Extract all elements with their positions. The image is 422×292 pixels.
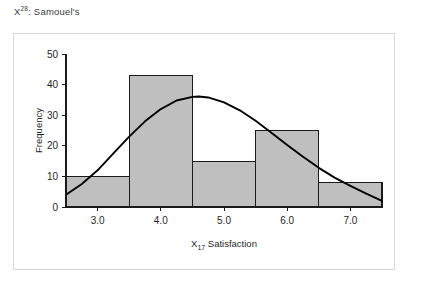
histogram-chart: 01020304050 3.04.05.06.07.0 Frequency X1…	[0, 0, 422, 292]
histogram-bar	[192, 161, 255, 207]
x-axis-ticks: 3.04.05.06.07.0	[91, 207, 358, 226]
y-axis-title-text: Frequency	[33, 108, 44, 153]
histogram-svg: 01020304050 3.04.05.06.07.0 Frequency X1…	[0, 0, 422, 292]
x-axis-tick-label: 5.0	[217, 215, 231, 226]
y-axis-tick-label: 20	[47, 140, 59, 151]
y-axis-ticks: 01020304050	[47, 49, 66, 213]
y-axis-title: Frequency	[33, 108, 44, 153]
histogram-bar	[66, 176, 129, 207]
y-axis-tick-label: 40	[47, 79, 59, 90]
x-axis-tick-label: 4.0	[154, 215, 168, 226]
y-axis-tick-label: 10	[47, 171, 59, 182]
histogram-bar	[256, 131, 319, 208]
histogram-bar	[129, 75, 192, 207]
x-axis-tick-label: 6.0	[280, 215, 294, 226]
x-axis-tick-label: 7.0	[343, 215, 357, 226]
y-axis-tick-label: 0	[52, 202, 58, 213]
x-axis-title: X17 Satisfaction	[191, 238, 257, 251]
x-axis-title-text: X17 Satisfaction	[191, 238, 257, 251]
x-axis-tick-label: 3.0	[91, 215, 105, 226]
y-axis-tick-label: 30	[47, 110, 59, 121]
y-axis-tick-label: 50	[47, 49, 59, 60]
